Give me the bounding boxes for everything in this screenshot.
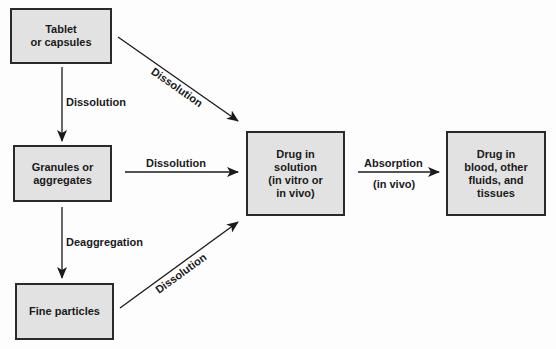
node-granules-label: Granules or aggregates <box>32 161 94 187</box>
arrow-fine-to-solution <box>120 222 238 308</box>
node-drug-in-solution: Drug in solution (in vitro or in vivo) <box>246 131 345 216</box>
node-tablet-label: Tablet or capsules <box>30 23 91 49</box>
edge-sublabel-in-vivo: (in vivo) <box>373 178 415 191</box>
edge-label-granules-to-solution: Dissolution <box>146 157 206 170</box>
node-solution-label: Drug in solution (in vitro or in vivo) <box>268 148 322 200</box>
node-blood-label: Drug in blood, other fluids, and tissues <box>464 148 528 200</box>
edge-label-absorption: Absorption <box>364 157 423 170</box>
node-tablet-or-capsules: Tablet or capsules <box>10 8 112 64</box>
edge-label-granules-to-fine: Deaggregation <box>66 236 143 249</box>
edge-label-tablet-to-granules: Dissolution <box>66 96 126 109</box>
node-granules-or-aggregates: Granules or aggregates <box>13 145 112 202</box>
node-fine-label: Fine particles <box>29 305 100 318</box>
drug-dissolution-diagram: Tablet or capsules Granules or aggregate… <box>0 0 556 349</box>
node-drug-in-blood: Drug in blood, other fluids, and tissues <box>446 131 546 216</box>
arrow-tablet-to-solution <box>118 37 238 121</box>
node-fine-particles: Fine particles <box>15 283 114 340</box>
